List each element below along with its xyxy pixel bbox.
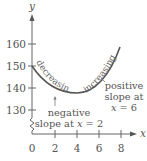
x-axis-label: x <box>140 127 146 139</box>
x-tick-2: 2 <box>52 142 59 154</box>
x-tick-0: 0 <box>29 142 36 154</box>
x-tick-8: 8 <box>118 142 125 154</box>
y-tick-150: 150 <box>6 60 26 72</box>
x-tick-4: 4 <box>74 142 81 154</box>
chart-svg: y 160 150 140 130 x 0 2 4 6 8 <box>0 0 147 161</box>
y-axis-arrow-icon <box>30 14 35 21</box>
positive-slope-line3: x = 6 <box>111 102 137 113</box>
y-axis: y 160 150 140 130 <box>6 0 36 134</box>
y-tick-160: 160 <box>6 38 26 50</box>
slope-figure: y 160 150 140 130 x 0 2 4 6 8 <box>0 0 147 161</box>
positive-slope-line1: positive <box>105 80 144 91</box>
positive-slope-line2: slope at <box>104 91 143 102</box>
negative-slope-line1: negative <box>48 107 91 118</box>
axis-break-icon <box>30 118 34 134</box>
negative-slope-line2: slope at x = 2 <box>35 118 103 129</box>
y-tick-140: 140 <box>6 82 26 94</box>
y-tick-130: 130 <box>6 104 26 116</box>
x-axis: x 0 2 4 6 8 <box>29 127 146 154</box>
x-axis-arrow-icon <box>130 132 137 137</box>
x-tick-6: 6 <box>96 142 103 154</box>
positive-slope-annotation: positive slope at x = 6 <box>101 78 144 113</box>
negative-slope-annotation: negative slope at x = 2 <box>35 96 103 129</box>
y-axis-label: y <box>28 0 36 12</box>
